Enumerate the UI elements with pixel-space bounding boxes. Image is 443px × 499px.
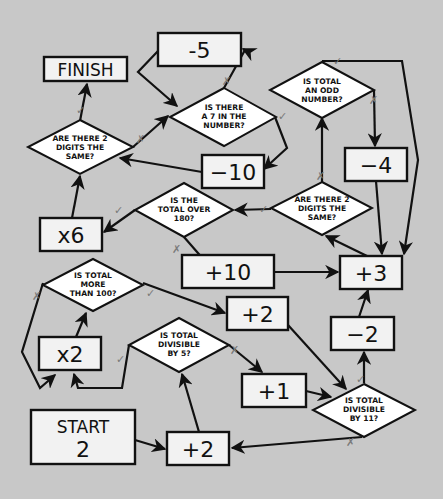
svg-text:IS THE: IS THE xyxy=(170,196,198,205)
svg-text:BY 5?: BY 5? xyxy=(167,349,190,358)
op-box-minus4: −4 xyxy=(345,148,407,181)
number-maze-diagram: ✓ ✗ ✓ ✗ ✓ ✗ ✓ ✗ ✓ ✗ ✓ ✗ ✓ ✗ ✓ ✗ IS THERE… xyxy=(0,0,443,499)
svg-text:MORE: MORE xyxy=(80,280,105,289)
question-two-digits-same-right: ARE THERE 2 DIGITS THE SAME? xyxy=(271,182,372,235)
op-box-plus10: +10 xyxy=(182,255,274,288)
arrow-start-to-plus2-lower xyxy=(135,440,165,449)
svg-text:−4: −4 xyxy=(360,153,392,178)
question-divisible-by-11: IS TOTAL DIVISIBLE BY 11? xyxy=(313,384,415,437)
check-mark-icon: ✓ xyxy=(114,204,123,217)
op-box-minus2: −2 xyxy=(331,317,394,350)
svg-text:x2: x2 xyxy=(56,342,83,367)
op-box-minus10: −10 xyxy=(202,155,264,188)
check-mark-icon: ✓ xyxy=(259,203,268,216)
svg-text:+3: +3 xyxy=(355,261,387,286)
op-box-times2: x2 xyxy=(39,337,101,370)
op-box-plus3: +3 xyxy=(340,256,402,289)
svg-text:DIGITS THE: DIGITS THE xyxy=(56,143,104,152)
svg-text:+1: +1 xyxy=(258,379,290,404)
svg-text:BY 11?: BY 11? xyxy=(350,414,379,423)
svg-text:ARE THERE 2: ARE THERE 2 xyxy=(294,195,349,204)
question-seven-in-number: IS THERE A 7 IN THE NUMBER? xyxy=(170,88,276,146)
arrow-plus1-to-div11 xyxy=(306,391,331,397)
svg-text:NUMBER?: NUMBER? xyxy=(301,95,342,104)
cross-mark-icon: ✗ xyxy=(346,436,355,449)
svg-text:-5: -5 xyxy=(189,38,211,63)
question-more-than-100: IS TOTAL MORE THAN 100? xyxy=(43,259,143,311)
cross-mark-icon: ✗ xyxy=(369,94,378,107)
start-box: START 2 xyxy=(31,410,135,464)
question-divisible-by-5: IS TOTAL DIVISIBLE BY 5? xyxy=(129,318,229,372)
cross-mark-icon: ✗ xyxy=(316,170,325,183)
svg-text:IS TOTAL: IS TOTAL xyxy=(345,396,383,405)
arrow-plus2-to-div5 xyxy=(182,374,199,432)
check-mark-icon: ✓ xyxy=(146,287,155,300)
question-two-digits-same-left: ARE THERE 2 DIGITS THE SAME? xyxy=(28,120,133,174)
cross-mark-icon: ✗ xyxy=(172,243,181,256)
op-box-times6: x6 xyxy=(40,218,102,251)
svg-text:THAN 100?: THAN 100? xyxy=(70,289,117,298)
svg-text:DIVISIBLE: DIVISIBLE xyxy=(158,340,200,349)
svg-text:A 7 IN THE: A 7 IN THE xyxy=(202,112,247,121)
svg-text:DIVISIBLE: DIVISIBLE xyxy=(343,405,385,414)
svg-text:SAME?: SAME? xyxy=(66,152,95,161)
op-box-minus5: -5 xyxy=(158,33,241,66)
question-total-over-180: IS THE TOTAL OVER 180? xyxy=(135,183,233,237)
svg-text:IS THERE: IS THERE xyxy=(205,103,244,112)
svg-text:−10: −10 xyxy=(210,160,256,185)
svg-text:IS TOTAL: IS TOTAL xyxy=(160,331,198,340)
cross-mark-icon: ✗ xyxy=(136,133,145,146)
svg-text:−2: −2 xyxy=(346,322,378,347)
arrow-minus4-to-plus3 xyxy=(376,181,382,254)
arrow-minus10-to-digits-left xyxy=(120,158,202,172)
diagram-canvas: ✓ ✗ ✓ ✗ ✓ ✗ ✓ ✗ ✓ ✗ ✓ ✗ ✓ ✗ ✓ ✗ IS THERE… xyxy=(0,0,443,499)
svg-text:IS TOTAL: IS TOTAL xyxy=(303,77,341,86)
cross-mark-icon: ✗ xyxy=(222,75,231,88)
arrow-x2-to-more100 xyxy=(76,313,86,337)
svg-text:SAME?: SAME? xyxy=(308,213,337,222)
svg-text:NUMBER?: NUMBER? xyxy=(203,121,244,130)
svg-text:DIGITS THE: DIGITS THE xyxy=(298,204,346,213)
arrow-plus3-to-digits-right xyxy=(326,236,367,256)
arrow-div11-no-to-plus2 xyxy=(232,437,362,448)
svg-text:ARE THERE 2: ARE THERE 2 xyxy=(52,134,107,143)
cross-mark-icon: ✗ xyxy=(32,290,41,303)
arrow-x6-to-digits-left xyxy=(72,176,80,218)
arrow-minus2-to-plus3 xyxy=(359,290,368,317)
svg-text:IS TOTAL: IS TOTAL xyxy=(74,271,112,280)
svg-text:AN ODD: AN ODD xyxy=(305,86,339,95)
svg-text:START: START xyxy=(57,417,110,437)
check-mark-icon: ✓ xyxy=(278,110,287,123)
svg-text:+2: +2 xyxy=(241,302,273,327)
check-mark-icon: ✓ xyxy=(116,353,125,366)
svg-text:FINISH: FINISH xyxy=(57,60,113,80)
check-mark-icon: ✓ xyxy=(333,55,342,68)
arrow-seven-yes-to-minus10 xyxy=(264,117,287,169)
op-box-plus2-lower: +2 xyxy=(167,432,229,465)
check-mark-icon: ✓ xyxy=(76,104,85,117)
cross-mark-icon: ✗ xyxy=(230,344,239,357)
svg-text:TOTAL OVER: TOTAL OVER xyxy=(158,205,211,214)
svg-text:+2: +2 xyxy=(182,437,214,462)
svg-text:x6: x6 xyxy=(57,223,84,248)
svg-text:+10: +10 xyxy=(205,260,251,285)
op-box-plus1: +1 xyxy=(242,374,306,407)
finish-box: FINISH xyxy=(44,57,127,81)
op-box-plus2-upper: +2 xyxy=(227,297,288,330)
svg-text:180?: 180? xyxy=(174,214,194,223)
svg-text:2: 2 xyxy=(76,437,90,462)
